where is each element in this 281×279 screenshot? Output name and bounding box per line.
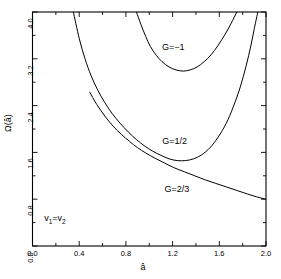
y-tick-label: 0.0 bbox=[25, 246, 34, 270]
y-tick-label: 2.4 bbox=[25, 105, 34, 129]
axes-group bbox=[33, 12, 267, 246]
y-tick-label: 4.0 bbox=[25, 12, 34, 36]
plot-canvas bbox=[0, 0, 281, 279]
curve-g-1 bbox=[136, 12, 236, 71]
x-tick-label: 1.2 bbox=[162, 249, 184, 258]
curves-group bbox=[73, 12, 266, 199]
x-axis-title: â bbox=[133, 262, 153, 272]
y-tick-label: 0.8 bbox=[25, 199, 34, 223]
y-tick-label: 1.6 bbox=[25, 152, 34, 176]
x-tick-label: 1.6 bbox=[208, 249, 230, 258]
chart-figure: Ω(â) â 0.00.40.81.21.62.0 0.00.81.62.43.… bbox=[0, 0, 281, 279]
y-tick-label: 3.2 bbox=[25, 58, 34, 82]
x-tick-label: 0.8 bbox=[115, 249, 137, 258]
curve-label-g-negative-1: G=−1 bbox=[162, 42, 185, 52]
x-tick-label: 0.4 bbox=[68, 249, 90, 258]
condition-equals-v2: =v bbox=[52, 213, 62, 223]
ticks-group bbox=[33, 12, 267, 246]
y-axis-title: Ω(â) bbox=[3, 101, 13, 145]
curve-label-g-two-thirds: G=2/3 bbox=[165, 184, 190, 194]
condition-annotation: v1=v2 bbox=[44, 213, 66, 225]
curve-label-g-one-half: G=1/2 bbox=[162, 136, 187, 146]
x-tick-label: 2.0 bbox=[255, 249, 277, 258]
condition-sub-2: 2 bbox=[62, 217, 66, 224]
